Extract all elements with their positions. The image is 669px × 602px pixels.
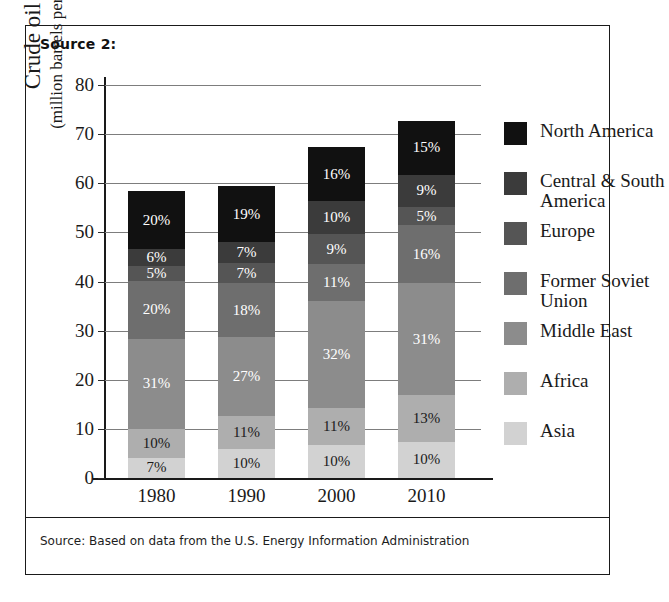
bar-segment-label: 15% <box>413 140 441 155</box>
bar-segment[interactable]: 7% <box>218 242 275 263</box>
legend-item[interactable]: North America <box>504 121 669 155</box>
bar-segment[interactable]: 16% <box>398 225 455 283</box>
bar-segment-label: 7% <box>237 266 257 281</box>
bar-segment[interactable]: 27% <box>218 337 275 417</box>
bar-segment[interactable]: 32% <box>308 301 365 408</box>
bar-segment-label: 9% <box>327 242 347 257</box>
y-axis-tick <box>98 282 105 283</box>
bar-segment-label: 32% <box>323 347 351 362</box>
y-axis-title: Crude oil (million barrels per day) <box>20 0 67 176</box>
y-axis-tick-label: 80 <box>75 74 94 96</box>
bar-segment[interactable]: 9% <box>308 234 365 264</box>
y-axis-tick <box>98 380 105 381</box>
bar-segment[interactable]: 19% <box>218 186 275 242</box>
footnote-divider <box>26 517 609 518</box>
gridline <box>105 85 481 86</box>
legend-item-label: North America <box>540 121 653 141</box>
y-axis-title-line2: (million barrels per day) <box>47 0 67 176</box>
y-axis-tick <box>98 478 105 479</box>
bar-segment[interactable]: 13% <box>398 395 455 442</box>
x-axis-tick-label: 2010 <box>398 485 455 507</box>
legend-item[interactable]: Middle East <box>504 321 669 355</box>
y-axis-tick <box>98 232 105 233</box>
bar-segment-label: 13% <box>413 411 441 426</box>
bar-segment[interactable]: 5% <box>128 266 185 280</box>
y-axis-tick <box>98 429 105 430</box>
y-axis-tick-label: 20 <box>75 369 94 391</box>
bar-segment-label: 5% <box>417 209 437 224</box>
source-header: Source 2: <box>40 36 116 52</box>
figure-panel: Source 2: Crude oil (million barrels per… <box>25 25 610 575</box>
x-axis-line <box>93 478 493 480</box>
stacked-bar[interactable]: 15%9%5%16%31%13%10% <box>398 121 455 478</box>
legend-item-label: Central & South America <box>540 171 669 211</box>
bar-segment[interactable]: 20% <box>128 281 185 339</box>
legend-item[interactable]: Africa <box>504 371 669 405</box>
bar-segment[interactable]: 7% <box>218 263 275 284</box>
bar-segment[interactable]: 31% <box>398 283 455 395</box>
y-axis-tick-label: 10 <box>75 418 94 440</box>
bar-segment-label: 10% <box>143 436 171 451</box>
legend-item-label: Europe <box>540 221 595 241</box>
bar-segment[interactable]: 11% <box>308 408 365 445</box>
y-axis-tick-label: 70 <box>75 123 94 145</box>
bar-segment-label: 20% <box>143 213 171 228</box>
bar-segment[interactable]: 16% <box>308 147 365 200</box>
y-axis-line <box>104 77 106 478</box>
bar-segment-label: 11% <box>323 419 350 434</box>
bar-segment[interactable]: 20% <box>128 191 185 249</box>
bar-segment[interactable]: 10% <box>218 449 275 478</box>
legend-swatch-icon <box>504 322 527 345</box>
bar-segment-label: 16% <box>323 167 351 182</box>
y-axis-tick-label: 40 <box>75 271 94 293</box>
stacked-bar[interactable]: 20%6%5%20%31%10%7% <box>128 191 185 478</box>
bar-segment-label: 9% <box>417 183 437 198</box>
stacked-bar[interactable]: 16%10%9%11%32%11%10% <box>308 147 365 478</box>
bar-segment-label: 18% <box>233 303 261 318</box>
y-axis-tick-label: 30 <box>75 320 94 342</box>
bar-segment-label: 10% <box>413 452 441 467</box>
x-axis-tick-label: 1980 <box>128 485 185 507</box>
legend: North AmericaCentral & South AmericaEuro… <box>504 121 669 471</box>
legend-item[interactable]: Former Soviet Union <box>504 271 669 305</box>
bar-segment[interactable]: 10% <box>128 429 185 458</box>
y-axis-tick <box>98 331 105 332</box>
legend-swatch-icon <box>504 122 527 145</box>
bar-segment[interactable]: 15% <box>398 121 455 175</box>
legend-item[interactable]: Europe <box>504 221 669 255</box>
bar-segment-label: 7% <box>237 245 257 260</box>
bar-segment[interactable]: 11% <box>308 264 365 301</box>
bar-segment-label: 20% <box>143 302 171 317</box>
bar-segment[interactable]: 5% <box>398 207 455 225</box>
bar-segment[interactable]: 10% <box>308 445 365 478</box>
bar-segment[interactable]: 11% <box>218 416 275 448</box>
bar-segment-label: 7% <box>147 460 167 475</box>
bar-segment-label: 19% <box>233 207 261 222</box>
bar-segment[interactable]: 6% <box>128 249 185 266</box>
bar-segment-label: 27% <box>233 369 261 384</box>
y-axis-tick <box>98 85 105 86</box>
legend-item-label: Former Soviet Union <box>540 271 669 311</box>
y-axis-tick-label: 50 <box>75 221 94 243</box>
y-axis-tick <box>98 134 105 135</box>
legend-item-label: Africa <box>540 371 589 391</box>
legend-item[interactable]: Central & South America <box>504 171 669 205</box>
bar-segment[interactable]: 9% <box>398 175 455 207</box>
bar-segment[interactable]: 31% <box>128 339 185 429</box>
bar-segment-label: 11% <box>323 275 350 290</box>
bar-segment[interactable]: 7% <box>128 458 185 478</box>
plot-area: 01020304050607080 20%6%5%20%31%10%7%19%7… <box>105 85 481 478</box>
bar-segment[interactable]: 10% <box>398 442 455 478</box>
stacked-bar[interactable]: 19%7%7%18%27%11%10% <box>218 186 275 478</box>
bar-segment-label: 6% <box>147 250 167 265</box>
legend-swatch-icon <box>504 172 527 195</box>
x-axis-tick-label: 2000 <box>308 485 365 507</box>
y-axis-tick-label: 0 <box>85 467 95 489</box>
bar-segment[interactable]: 10% <box>308 201 365 234</box>
bar-segment[interactable]: 18% <box>218 283 275 336</box>
bar-segment-label: 10% <box>323 210 351 225</box>
bar-segment-label: 31% <box>413 332 441 347</box>
legend-item[interactable]: Asia <box>504 421 669 455</box>
y-axis-tick <box>98 183 105 184</box>
legend-swatch-icon <box>504 222 527 245</box>
